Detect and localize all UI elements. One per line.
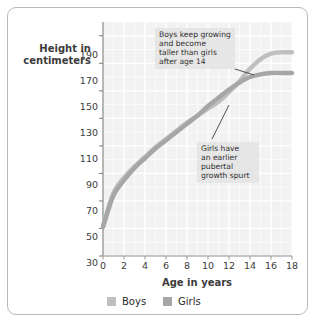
legend-label-girls: Girls bbox=[178, 296, 201, 307]
boys-annotation-line-1: Boys keep growing bbox=[159, 30, 231, 39]
x-tick-label-2: 2 bbox=[121, 260, 127, 271]
x-tick-label-16: 16 bbox=[265, 260, 277, 271]
x-tick-label-0: 0 bbox=[100, 260, 106, 271]
chart-canvas: 190 170 150 130 110 90 70 50 30 0 2 4 6 … bbox=[0, 0, 315, 322]
boys-annotation-line-3: taller than girls bbox=[159, 48, 217, 57]
girls-annotation-line-4: growth spurt bbox=[201, 171, 250, 180]
y-tick-label-110: 110 bbox=[80, 153, 98, 164]
y-tick-label-70: 70 bbox=[86, 205, 98, 216]
x-tick-label-6: 6 bbox=[163, 260, 169, 271]
y-tick-label-130: 130 bbox=[80, 127, 98, 138]
y-axis-title-line1: Height in bbox=[39, 43, 91, 54]
growth-chart-figure: 190 170 150 130 110 90 70 50 30 0 2 4 6 … bbox=[0, 0, 315, 322]
y-tick-label-170: 170 bbox=[80, 75, 98, 86]
x-tick-label-4: 4 bbox=[142, 260, 148, 271]
x-tick-label-8: 8 bbox=[184, 260, 190, 271]
girls-annotation-line-1: Girls have bbox=[201, 144, 240, 153]
y-tick-label-150: 150 bbox=[80, 101, 98, 112]
girls-annotation-line-2: an earlier bbox=[201, 153, 238, 162]
y-axis-title-line2: centimeters bbox=[23, 55, 91, 66]
x-axis-title: Age in years bbox=[162, 277, 232, 288]
y-tick-label-30: 30 bbox=[86, 257, 98, 268]
x-tick-label-10: 10 bbox=[202, 260, 214, 271]
boys-annotation-line-2: and become bbox=[159, 39, 206, 48]
x-tick-label-14: 14 bbox=[244, 260, 256, 271]
legend-swatch-boys bbox=[107, 297, 116, 306]
legend-label-boys: Boys bbox=[122, 296, 146, 307]
x-tick-label-18: 18 bbox=[286, 260, 298, 271]
y-tick-label-90: 90 bbox=[86, 179, 98, 190]
girls-annotation-line-3: pubertal bbox=[201, 162, 233, 171]
boys-annotation-line-4: after age 14 bbox=[159, 57, 206, 66]
x-tick-label-12: 12 bbox=[223, 260, 235, 271]
y-tick-label-50: 50 bbox=[86, 231, 98, 242]
legend-swatch-girls bbox=[163, 297, 172, 306]
